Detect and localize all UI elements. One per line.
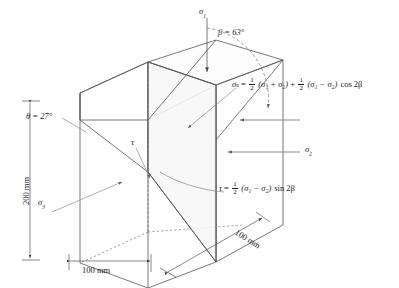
diagram-geometry [0, 0, 399, 288]
eq-term1: (σ₁ + σ₂) [256, 80, 288, 89]
height-text: 200 mm [21, 177, 31, 205]
sigma3-leader [52, 182, 122, 212]
sigma2-subscript: 2 [309, 151, 312, 157]
shear-stress-equation: τ = 1 2 (σ₁ − σ₂) sin 2β [219, 181, 295, 196]
figure-canvas: σ1 β = 63° θ = 27° σ2 σ3 τ σn = 1 2 (σ₁ … [0, 0, 399, 288]
tau-label: τ [131, 138, 134, 147]
eq-equals-1: = [239, 80, 248, 89]
sigma1-subscript: 1 [203, 13, 206, 19]
beta-angle-label: β = 63° [218, 28, 244, 37]
eq-fraction-half-3: 1 2 [232, 181, 238, 196]
eq-term2: (σ₁ − σ₂) [305, 80, 337, 89]
eq-frac1-denominator: 2 [249, 84, 255, 92]
sigma1-label: σ1 [199, 7, 206, 18]
tau-symbol: τ [131, 137, 134, 147]
sigma2-label: σ2 [305, 145, 312, 156]
eq-equals-2: = [222, 184, 231, 193]
sigma3-label: σ3 [38, 198, 45, 209]
sigma3-subscript: 3 [42, 204, 45, 210]
eq-fraction-half-2: 1 2 [298, 77, 304, 92]
beta-text: β = 63° [218, 27, 244, 37]
dimension-label-height: 200 mm [22, 177, 31, 205]
eq-plus: + [288, 80, 297, 89]
eq-term3: (σ₁ − σ₂) [239, 184, 271, 193]
eq-frac3-denominator: 2 [232, 188, 238, 196]
eq-cos-term: cos 2β [337, 80, 362, 89]
sigma2-arrow [228, 120, 300, 152]
theta-text: θ = 27° [26, 111, 52, 121]
eq-frac3-numerator: 1 [232, 181, 238, 188]
eq-fraction-half-1: 1 2 [249, 77, 255, 92]
eq-frac2-denominator: 2 [298, 84, 304, 92]
eq-frac2-numerator: 1 [298, 77, 304, 84]
eq-frac1-numerator: 1 [249, 77, 255, 84]
width-text: 100 mm [82, 265, 110, 275]
dimension-label-width: 100 mm [82, 266, 110, 275]
theta-angle-label: θ = 27° [26, 112, 52, 121]
normal-stress-equation: σn = 1 2 (σ₁ + σ₂) + 1 2 (σ₁ − σ₂) cos 2… [232, 77, 362, 92]
eq-sin-term: sin 2β [271, 184, 295, 193]
eq-sigma-n-subscript: n [236, 83, 239, 89]
